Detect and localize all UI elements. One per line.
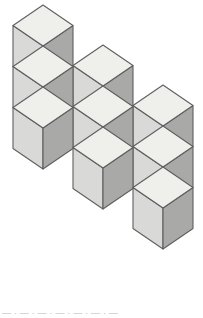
- cube-figure: — · — · — · — · — · — · —: [0, 0, 203, 318]
- cubes-layer: [13, 5, 193, 249]
- cube-stack-svg: [0, 0, 203, 318]
